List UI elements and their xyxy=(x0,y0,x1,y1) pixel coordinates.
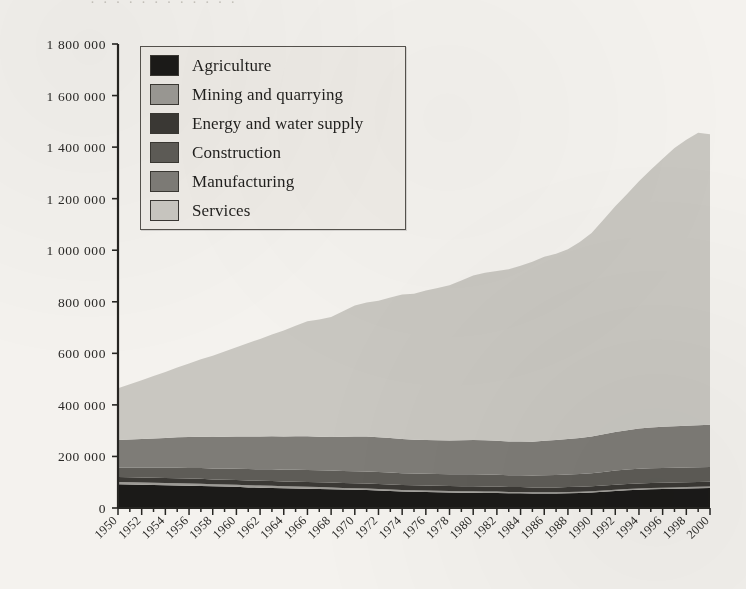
x-axis-tick-label: 1998 xyxy=(660,513,688,541)
x-axis-tick-label: 1984 xyxy=(494,513,523,542)
x-axis-tick-label: 1968 xyxy=(305,513,333,541)
y-axis-tick-labels: 0200 000400 000600 000800 0001 000 0001 … xyxy=(47,37,106,516)
x-axis-tick-label: 1972 xyxy=(352,513,380,541)
x-axis-tick-label: 1960 xyxy=(210,513,238,541)
y-axis-tick-label: 400 000 xyxy=(58,398,106,413)
legend-item-label: Energy and water supply xyxy=(192,114,363,134)
legend-swatch-icon xyxy=(150,200,179,221)
y-axis-tick-label: 800 000 xyxy=(58,295,106,310)
legend-item-label: Mining and quarrying xyxy=(192,85,343,105)
x-axis-tick-label: 1970 xyxy=(328,513,356,541)
x-axis-tick-label: 1980 xyxy=(447,513,475,541)
legend-item[interactable]: Manufacturing xyxy=(141,167,405,196)
x-axis-tick-label: 1992 xyxy=(589,513,617,541)
x-axis-tick-label: 1954 xyxy=(139,513,168,542)
legend-item-label: Manufacturing xyxy=(192,172,294,192)
x-axis-tick-label: 1974 xyxy=(376,513,405,542)
legend-swatch-icon xyxy=(150,113,179,134)
y-axis-tick-label: 1 200 000 xyxy=(47,192,106,207)
x-axis-tick-label: 1962 xyxy=(234,513,262,541)
x-axis-tick-label: 2000 xyxy=(684,513,712,541)
x-axis-tick-label: 1996 xyxy=(636,513,664,541)
y-axis-tick-label: 600 000 xyxy=(58,346,106,361)
x-axis-tick-labels: 1950195219541956195819601962196419661968… xyxy=(92,513,712,542)
legend-item-label: Services xyxy=(192,201,250,221)
legend-item[interactable]: Agriculture xyxy=(141,51,405,80)
y-axis-tick-label: 1 400 000 xyxy=(47,140,106,155)
page-root: · · · · · · · · · · · · 0200 000400 0006… xyxy=(0,0,746,589)
legend-item[interactable]: Energy and water supply xyxy=(141,109,405,138)
legend-swatch-icon xyxy=(150,84,179,105)
x-axis-tick-label: 1982 xyxy=(471,513,499,541)
x-axis-tick-label: 1986 xyxy=(518,513,546,541)
x-axis-tick-label: 1988 xyxy=(542,513,570,541)
x-axis-tick-label: 1966 xyxy=(281,513,309,541)
y-axis-tick-label: 1 800 000 xyxy=(47,37,106,52)
legend-swatch-icon xyxy=(150,171,179,192)
x-axis-tick-label: 1952 xyxy=(115,513,143,541)
y-axis-tick-label: 200 000 xyxy=(58,449,106,464)
y-axis-tick-label: 1 000 000 xyxy=(47,243,106,258)
legend-item[interactable]: Construction xyxy=(141,138,405,167)
x-axis-tick-label: 1964 xyxy=(257,513,286,542)
x-axis-tick-label: 1958 xyxy=(186,513,214,541)
chart-legend: AgricultureMining and quarryingEnergy an… xyxy=(140,46,406,230)
legend-swatch-icon xyxy=(150,55,179,76)
legend-item[interactable]: Mining and quarrying xyxy=(141,80,405,109)
legend-item-label: Construction xyxy=(192,143,281,163)
legend-item[interactable]: Services xyxy=(141,196,405,225)
x-axis-tick-label: 1956 xyxy=(163,513,191,541)
y-axis-tick-label: 1 600 000 xyxy=(47,89,106,104)
x-axis-tick-label: 1990 xyxy=(565,513,593,541)
legend-item-label: Agriculture xyxy=(192,56,271,76)
x-axis-tick-label: 1978 xyxy=(423,513,451,541)
legend-swatch-icon xyxy=(150,142,179,163)
x-axis-tick-label: 1950 xyxy=(92,513,120,541)
y-axis-tick-label: 0 xyxy=(99,501,106,516)
x-axis-tick-label: 1994 xyxy=(613,513,642,542)
x-axis-tick-label: 1976 xyxy=(400,513,428,541)
